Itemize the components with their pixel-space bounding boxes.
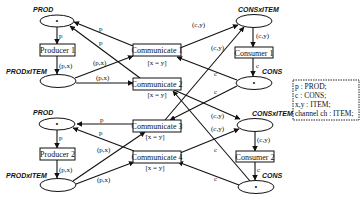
arc-label: c [256,62,259,70]
arc-label: (c,y) [257,136,271,144]
arc-label: c [214,175,217,183]
place-consxitem1[interactable]: CONSxITEM [236,6,279,28]
declaration-line: c : CONS; [295,91,326,100]
place-label: PROD [33,109,53,116]
arc-label: p [99,39,103,47]
token: • [255,183,258,192]
arc-label: (p,x) [96,74,110,82]
guard-label: [x = y] [145,164,164,172]
transition-communicate2[interactable]: Communicate 2 [x = y] [132,78,183,99]
declarations-box: p : PROD; c : CONS; x,y : ITEM; channel … [293,80,359,120]
transition-label: Consumer 2 [236,153,275,162]
declaration-line: x,y : ITEM; [295,100,331,109]
arc-label: (c,y) [211,112,225,120]
arc-cons2-comm4 [178,162,239,185]
transition-producer2[interactable]: Producer 2 [40,148,75,160]
arc-label: p [100,116,104,124]
transition-label: Communicate 4 [132,153,183,162]
transition-communicate3[interactable]: Communicate 3 [x = y] [132,120,183,141]
declaration-line: p : PROD; [295,82,327,91]
token: • [253,79,256,88]
arc-comm3-consxitem1 [165,27,244,120]
petri-net-diagram: • PROD PRODxITEM CONSxITEM • CONS • PROD… [0,0,362,200]
arc-label: (p,x) [97,176,111,184]
arc-comm2-prod1 [70,26,140,78]
place-prod1[interactable]: • PROD [33,6,74,27]
arc-label: c [214,70,217,78]
place-label: CONS [262,68,283,75]
arc-label: (c,y) [192,21,206,29]
arc-label: (c,y) [211,125,225,133]
transition-label: Producer 1 [40,46,75,55]
place-label: CONSxITEM [252,110,293,117]
place-label: PRODxITEM [6,68,47,75]
arc-label: (c,y) [211,44,225,52]
transition-label: Communicate 2 [132,80,183,89]
transition-producer1[interactable]: Producer 1 [40,44,75,56]
arc-label: (p,x) [59,62,73,70]
token: • [56,120,59,129]
transition-label: Communicate 3 [132,122,183,131]
transition-label: Communicate 1 [132,46,183,55]
place-prodxitem2[interactable]: PRODxITEM [6,172,76,192]
guard-label: [x = y] [145,133,164,141]
declaration-line: channel ch : ITEM; [295,109,354,118]
place-label: CONS [262,172,283,179]
transition-label: Consumer 1 [235,49,274,58]
arc-label: p [59,32,63,40]
arc-label: p [59,134,63,142]
transition-communicate1[interactable]: Communicate 1 [x = y] [132,44,183,67]
transition-label: Producer 2 [40,150,75,159]
arc-cons2-comm2 [173,91,250,181]
arc-label: p [99,25,103,33]
guard-label: [x = y] [147,59,166,67]
arc-comm4-consxitem2 [180,129,239,153]
place-prodxitem1[interactable]: PRODxITEM [6,68,76,88]
arc-label: (p,x) [97,146,111,154]
arc-label: c [214,146,217,154]
token: • [56,17,59,26]
arc-label: p [99,129,103,137]
place-label: PROD [33,6,53,13]
arc-label: (p,x) [93,59,107,67]
arc-label: (p,x) [59,166,73,174]
place-prod2[interactable]: • PROD [33,109,75,130]
transition-consumer1[interactable]: Consumer 1 [235,47,274,58]
arc-comm1-prod1 [74,22,133,46]
place-label: CONSxITEM [238,6,279,13]
arc-label: c [214,88,217,96]
arc-label: c [257,166,260,174]
arc-label: (c,y) [256,32,270,40]
transition-communicate4[interactable]: Communicate 4 [x = y] [132,151,183,172]
place-consxitem2[interactable]: CONSxITEM [237,110,293,132]
transition-consumer2[interactable]: Consumer 2 [236,151,275,162]
place-cons1[interactable]: • CONS [236,68,283,90]
guard-label: [x = y] [147,91,166,99]
arc-cons1-comm1 [177,57,237,80]
place-label: PRODxITEM [6,172,47,179]
